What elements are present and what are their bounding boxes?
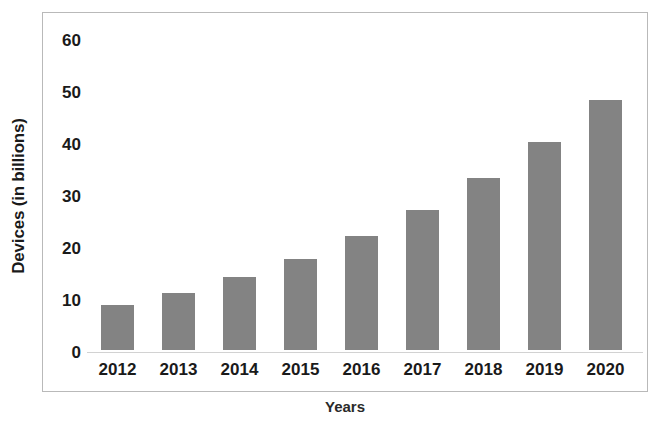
x-axis-tick-label: 2017 — [392, 361, 453, 378]
bars-container: 201220132014201520162017201820192020 — [87, 13, 645, 391]
bar-group: 2019 — [514, 11, 575, 391]
bar-group: 2020 — [575, 11, 636, 391]
y-axis-tick-label: 20 — [47, 240, 81, 257]
y-axis-tick-label: 50 — [47, 84, 81, 101]
bar-group: 2016 — [331, 11, 392, 391]
y-axis-title: Devices (in billions) — [0, 0, 38, 392]
x-axis-title: Years — [42, 398, 648, 415]
x-axis-tick-label: 2019 — [514, 361, 575, 378]
x-axis-tick-label: 2014 — [209, 361, 270, 378]
x-axis-tick-label: 2012 — [87, 361, 148, 378]
x-axis-tick-label: 2013 — [148, 361, 209, 378]
x-axis-tick-label: 2020 — [575, 361, 636, 378]
y-axis-tick-label: 60 — [47, 32, 81, 49]
bar-group: 2015 — [270, 11, 331, 391]
bar[interactable] — [223, 277, 256, 350]
bar[interactable] — [528, 142, 561, 350]
y-axis-tick-label: 0 — [47, 344, 81, 361]
bar-group: 2014 — [209, 11, 270, 391]
bar[interactable] — [345, 236, 378, 350]
bar[interactable] — [406, 210, 439, 350]
y-axis-tick-label: 40 — [47, 136, 81, 153]
bar[interactable] — [101, 305, 134, 350]
plot-area-frame: 0102030405060 20122013201420152016201720… — [42, 12, 648, 392]
bar[interactable] — [162, 293, 195, 350]
bar-chart-figure: Devices (in billions) 0102030405060 2012… — [0, 0, 669, 440]
bar-group: 2017 — [392, 11, 453, 391]
x-axis-tick-label: 2016 — [331, 361, 392, 378]
bar-group: 2013 — [148, 11, 209, 391]
y-axis-tick-label: 30 — [47, 188, 81, 205]
bar-group: 2012 — [87, 11, 148, 391]
y-axis-title-text: Devices (in billions) — [9, 118, 29, 273]
bar[interactable] — [467, 178, 500, 350]
y-axis-tick-label: 10 — [47, 292, 81, 309]
x-axis-tick-label: 2015 — [270, 361, 331, 378]
x-axis-tick-label: 2018 — [453, 361, 514, 378]
bar-group: 2018 — [453, 11, 514, 391]
bar[interactable] — [284, 259, 317, 350]
bar[interactable] — [589, 100, 622, 350]
